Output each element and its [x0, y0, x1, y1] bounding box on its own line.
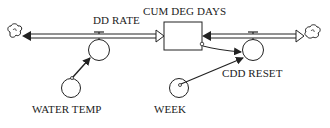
- aux-label-water-temp: WATER TEMP: [32, 103, 102, 115]
- aux-label-week: WEEK: [154, 103, 186, 115]
- cloud-source-icon: [8, 24, 22, 38]
- valve-cdd-reset-icon[interactable]: [243, 32, 264, 61]
- aux-week[interactable]: [170, 79, 189, 98]
- link-stock-to-cdd-reset: [200, 42, 241, 52]
- flow-label-dd-rate: DD RATE: [93, 14, 140, 26]
- stock-cum-deg-days[interactable]: [164, 22, 202, 50]
- valve-dd-rate-icon[interactable]: [89, 32, 110, 61]
- stock-flow-diagram: DD RATE CUM DEG DAYS CDD RESET WATER TEM…: [0, 0, 330, 128]
- flow-pipe-dd-rate: [22, 30, 164, 42]
- stock-label-cum-deg-days: CUM DEG DAYS: [143, 5, 226, 17]
- cloud-sink-icon: [305, 25, 320, 38]
- aux-water-temp[interactable]: [62, 79, 81, 98]
- link-water-temp-to-dd-rate: [71, 58, 91, 80]
- flow-label-cdd-reset: CDD RESET: [222, 67, 283, 79]
